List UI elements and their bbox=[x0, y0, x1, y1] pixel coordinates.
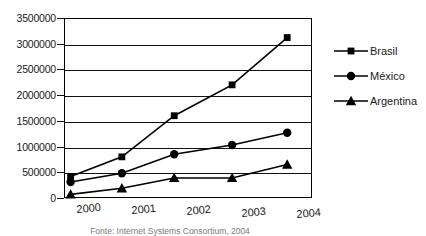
x-axis-tick-label: 2000 bbox=[76, 202, 101, 215]
x-axis-tick-label: 2004 bbox=[296, 207, 321, 220]
data-point-marker bbox=[284, 34, 291, 41]
y-axis-tick-mark bbox=[57, 121, 64, 122]
data-point-marker bbox=[282, 159, 292, 168]
y-axis-tick-mark bbox=[57, 198, 64, 199]
y-axis-tick-label: 1000000 bbox=[0, 142, 56, 152]
chart-legend: BrasilMéxicoArgentina bbox=[334, 38, 426, 113]
legend-marker-square-icon bbox=[334, 44, 368, 58]
series-line bbox=[71, 38, 288, 177]
line-chart-figure: 0500000100000015000002000000250000030000… bbox=[0, 0, 426, 236]
legend-label: Argentina bbox=[368, 95, 417, 107]
y-axis-tick-mark bbox=[57, 172, 64, 173]
chart-caption: Fonte: Internet Systems Consortium, 2004 bbox=[0, 227, 340, 236]
data-point-marker bbox=[228, 141, 236, 149]
data-point-marker bbox=[229, 81, 236, 88]
data-point-marker bbox=[348, 47, 355, 54]
y-axis-tick-label: 3000000 bbox=[0, 39, 56, 49]
y-axis-tick-label: 3500000 bbox=[0, 13, 56, 23]
legend-label: Brasil bbox=[368, 45, 398, 57]
legend-item-méxico[interactable]: México bbox=[334, 63, 426, 88]
x-axis-tick-label: 2003 bbox=[241, 205, 266, 218]
y-axis-tick-mark bbox=[57, 44, 64, 45]
data-point-marker bbox=[170, 150, 178, 158]
x-axis-tick-label: 2001 bbox=[131, 203, 156, 216]
legend-item-argentina[interactable]: Argentina bbox=[334, 88, 426, 113]
y-axis-tick-label: 0 bbox=[0, 193, 56, 203]
data-point-marker bbox=[283, 128, 291, 136]
y-axis-tick-label: 500000 bbox=[0, 167, 56, 177]
legend-marker-triangle-icon bbox=[334, 94, 368, 108]
legend-item-brasil[interactable]: Brasil bbox=[334, 38, 426, 63]
y-axis-tick-label: 2000000 bbox=[0, 90, 56, 100]
data-point-marker bbox=[118, 169, 126, 177]
legend-marker-circle-icon bbox=[334, 69, 368, 83]
series-brasil bbox=[67, 34, 290, 180]
y-axis-tick-mark bbox=[57, 69, 64, 70]
data-point-marker bbox=[118, 153, 125, 160]
y-axis-tick-mark bbox=[57, 95, 64, 96]
data-series-layer bbox=[64, 18, 312, 198]
data-point-marker bbox=[347, 71, 355, 79]
data-point-marker bbox=[171, 112, 178, 119]
legend-label: México bbox=[368, 70, 405, 82]
series-line bbox=[71, 133, 288, 182]
data-point-marker bbox=[66, 178, 74, 186]
y-axis-tick-mark bbox=[57, 147, 64, 148]
y-axis-tick-mark bbox=[57, 18, 64, 19]
y-axis-tick-label: 2500000 bbox=[0, 64, 56, 74]
x-axis-tick-label: 2002 bbox=[186, 204, 211, 217]
series-line bbox=[71, 165, 288, 195]
y-axis-tick-label: 1500000 bbox=[0, 116, 56, 126]
